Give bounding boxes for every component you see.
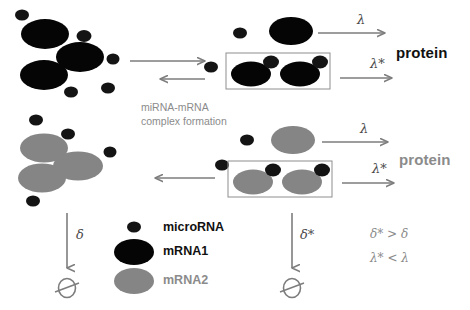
- complex-mrna2: [282, 164, 330, 195]
- microrna-dot: [107, 54, 120, 65]
- microrna-dot: [314, 164, 330, 177]
- complex-mrna1: [280, 56, 328, 87]
- microrna-dot: [101, 83, 115, 94]
- rate-label-delta-star: δ*: [300, 228, 314, 241]
- complex-box-bottom: [228, 161, 332, 197]
- microrna-dot: [215, 160, 229, 171]
- rate-label-lambda-bottom: λ: [360, 122, 368, 135]
- sink-empty-set-left: [55, 279, 79, 298]
- product-label-protein-top: protein: [396, 45, 448, 60]
- complex-formation-arrows-top: [130, 61, 205, 79]
- rate-label-lambda-star-top: λ*: [370, 57, 385, 70]
- rate-label-lambda-star-bottom: λ*: [372, 162, 387, 175]
- complex-formation-caption: miRNA-mRNA complex formation: [141, 101, 227, 128]
- microrna-dot: [26, 196, 40, 207]
- microrna-dot: [233, 28, 247, 39]
- free-pool-mrna2: [18, 115, 117, 207]
- microrna-dot: [77, 30, 92, 42]
- microrna-dot: [64, 87, 78, 98]
- free-state-bottom: [215, 126, 315, 171]
- complex-box-top: [226, 53, 330, 89]
- microrna-dot: [104, 147, 117, 158]
- microrna-dot: [29, 115, 43, 126]
- microrna-dot: [265, 164, 281, 177]
- microrna-dot: [312, 56, 328, 69]
- legend-label-microrna: microRNA: [163, 221, 224, 234]
- diagram-canvas: miRNA-mRNA complex formation λ λ* λ λ* δ…: [0, 0, 470, 310]
- legend-label-mrna1: mRNA1: [163, 245, 208, 258]
- sink-empty-set-right: [280, 279, 304, 298]
- complex-mrna1: [231, 56, 279, 87]
- mrna2-ellipse: [271, 126, 315, 154]
- relation-lambda: λ* < λ: [370, 252, 409, 264]
- mrna1-ellipse: [20, 60, 68, 90]
- legend-label-mrna2: mRNA2: [163, 274, 208, 287]
- legend-swatch-microrna: [127, 222, 141, 233]
- mrna1-ellipse: [269, 17, 313, 45]
- product-label-protein-bottom: protein: [399, 152, 451, 167]
- microrna-dot: [204, 62, 218, 73]
- rate-label-delta: δ: [76, 228, 84, 241]
- legend-swatch-mrna1: [114, 239, 154, 265]
- microrna-dot: [240, 135, 254, 146]
- legend-swatches: [114, 222, 154, 295]
- mrna1-ellipse: [21, 19, 69, 49]
- microrna-dot: [263, 56, 279, 69]
- complex-mrna2: [233, 164, 281, 195]
- legend-swatch-mrna2: [114, 268, 154, 294]
- free-pool-mrna1: [15, 10, 120, 98]
- relation-delta: δ* > δ: [370, 228, 408, 240]
- rate-label-lambda-top: λ: [357, 13, 365, 26]
- microrna-dot: [61, 129, 75, 140]
- microrna-dot: [15, 10, 29, 21]
- mrna2-ellipse: [18, 164, 66, 193]
